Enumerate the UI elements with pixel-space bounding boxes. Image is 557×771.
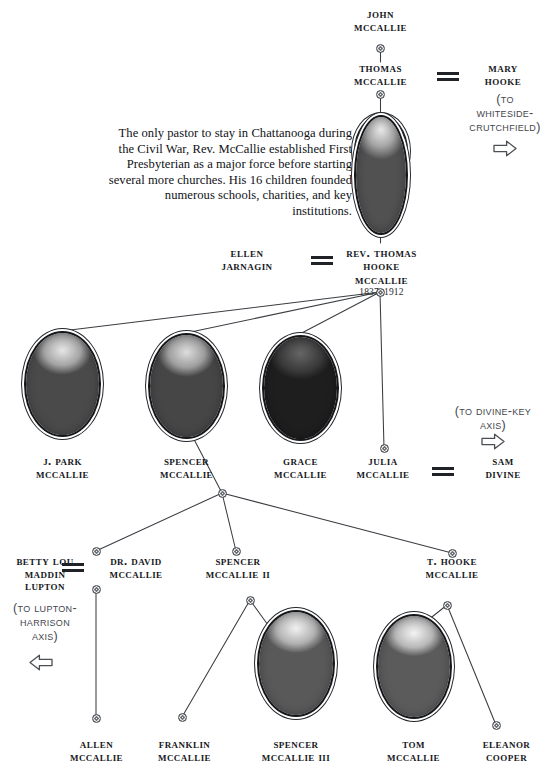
person-label-ellen: Ellen Jarnagin xyxy=(190,246,304,273)
person-label-grace: Grace McCallie xyxy=(250,455,351,480)
family-tree-chart: John McCallie Thomas McCallie Mary Hooke… xyxy=(0,0,557,771)
right-arrow-icon-whiteside xyxy=(492,139,518,158)
portrait-j-park xyxy=(21,328,104,440)
person-label-spencer-ii: Spencer McCallie II xyxy=(186,555,290,580)
marriage-symbol-betty-david xyxy=(62,563,84,572)
portrait-grace xyxy=(259,332,342,444)
left-arrow-icon-lupton xyxy=(28,653,54,672)
portrait-spencer-iii xyxy=(254,607,338,720)
node-franklin xyxy=(178,713,187,722)
person-label-julia: Julia McCallie xyxy=(344,455,422,480)
person-label-franklin: Franklin McCallie xyxy=(134,738,235,763)
person-label-eleanor: Eleanor Cooper xyxy=(457,738,556,763)
portrait-rev-thomas-frame xyxy=(351,112,411,238)
node-rev-thomas xyxy=(376,288,385,297)
portrait-tom xyxy=(373,611,455,722)
person-label-john: John McCallie xyxy=(330,8,431,33)
node-t-hooke-children xyxy=(443,601,452,610)
note-divine-key: (To Divine-Key Axis) xyxy=(430,404,556,432)
node-john xyxy=(376,44,385,53)
node-betty-lou xyxy=(92,585,101,594)
person-label-spencer: Spencer McCallie xyxy=(136,455,237,480)
person-label-tom: Tom McCallie xyxy=(363,738,464,763)
person-label-mary: Mary Hooke xyxy=(455,62,551,87)
marriage-symbol-julia-sam xyxy=(432,467,454,476)
person-label-spencer-iii: Spencer McCallie III xyxy=(242,738,350,763)
node-allen xyxy=(92,714,101,723)
marriage-symbol-ellen-rev xyxy=(311,256,333,265)
node-julia xyxy=(380,444,389,453)
person-label-t-hooke: T. Hooke McCallie xyxy=(400,555,504,580)
portrait-spencer xyxy=(145,330,228,442)
node-thomas xyxy=(376,90,385,99)
note-lupton-harrison: (To Lupton- Harrison Axis) xyxy=(1,601,89,643)
right-arrow-icon-divine xyxy=(480,432,506,451)
person-label-betty-lou: Betty Lou Maddin Lupton xyxy=(2,555,88,593)
node-eleanor xyxy=(492,721,501,730)
note-whiteside-crutchfield: (To Whiteside- Crutchfield) xyxy=(455,92,555,134)
person-label-dr-david: Dr. David McCallie xyxy=(88,555,184,580)
node-spencer-ii-children xyxy=(246,596,255,605)
biography-paragraph: The only pastor to stay in Chattanooga d… xyxy=(104,126,352,220)
person-label-allen: Allen McCallie xyxy=(46,738,147,763)
node-spencer xyxy=(218,489,227,498)
person-label-sam-divine: Sam Divine xyxy=(460,455,546,480)
person-label-thomas: Thomas McCallie xyxy=(330,62,431,87)
person-label-rev-thomas: Rev. Thomas Hooke McCallie xyxy=(337,246,426,286)
person-label-j-park: J. Park McCallie xyxy=(12,455,113,480)
